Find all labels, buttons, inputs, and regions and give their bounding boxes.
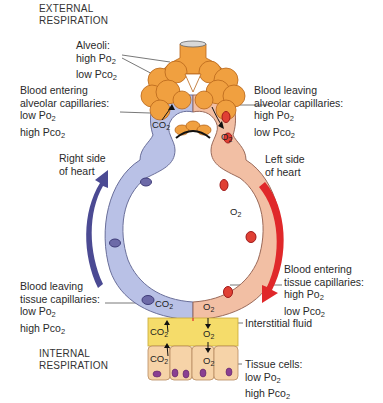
left-side-heart-label: Left side of heart [265,153,305,178]
label-line: Blood entering [20,84,109,97]
label-line: low Pco2 [76,68,117,85]
interstitial-fluid-label: Interstitial fluid [245,317,312,330]
blood-entering-tissue-label: Blood entering tissue capillaries: high … [284,263,364,321]
label-line: of heart [265,166,305,179]
blood-entering-alveolar-label: Blood entering alveolar capillaries: low… [20,84,109,142]
label-line: Blood entering [284,263,364,276]
label-line: tissue capillaries: [284,276,364,289]
label-line: high Pco2 [20,322,100,339]
label-line: alveolar capillaries: [20,97,109,110]
blood-leaving-tissue-label: Blood leaving tissue capillaries: low Po… [20,280,100,338]
label-line: high Pco2 [20,126,109,143]
label-line: low Po2 [245,371,302,388]
label-line: high Po2 [76,52,117,69]
heading-line: INTERNAL [39,348,108,360]
label-line: tissue capillaries: [20,293,100,306]
label-line: low Po2 [20,109,109,126]
alveoli-label: Alveoli: high Po2 low Pco2 [76,39,117,85]
heading-line: RESPIRATION [39,360,108,372]
o2-vessel-label: O2 [230,206,241,218]
internal-respiration-heading: INTERNAL RESPIRATION [39,348,108,372]
label-line: low Pco2 [254,126,343,143]
label-title: Alveoli: [76,39,117,52]
label-line: high Po2 [284,288,364,305]
label-line: high Po2 [254,109,343,126]
external-respiration-heading: EXTERNAL RESPIRATION [39,3,108,27]
label-line: Right side [59,152,106,165]
label-line: low Po2 [20,305,100,322]
label-line: Blood leaving [254,84,343,97]
tissue-cells-label: Tissue cells: low Po2 high Pco2 [245,358,302,403]
blood-leaving-alveolar-label: Blood leaving alveolar capillaries: high… [254,84,343,142]
label-line: Left side [265,153,305,166]
heading-line: RESPIRATION [39,15,108,27]
label-title: Tissue cells: [245,358,302,371]
label-line: alveolar capillaries: [254,97,343,110]
label-line: Blood leaving [20,280,100,293]
heading-line: EXTERNAL [39,3,108,15]
label-line: of heart [59,165,106,178]
label-line: high Pco2 [245,387,302,403]
right-side-heart-label: Right side of heart [59,152,106,177]
